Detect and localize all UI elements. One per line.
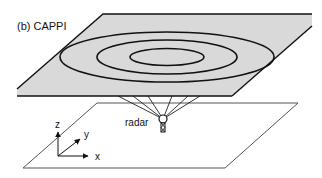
z-axis-label: z [55, 119, 60, 130]
panel-label: (b) CAPPI [17, 20, 67, 32]
ground-plane [23, 103, 298, 168]
y-axis-label: y [84, 129, 89, 140]
cappi-diagram: (b) CAPPI radar z y x [0, 0, 322, 178]
x-axis-label: x [95, 151, 100, 162]
radar-label: radar [125, 117, 149, 128]
